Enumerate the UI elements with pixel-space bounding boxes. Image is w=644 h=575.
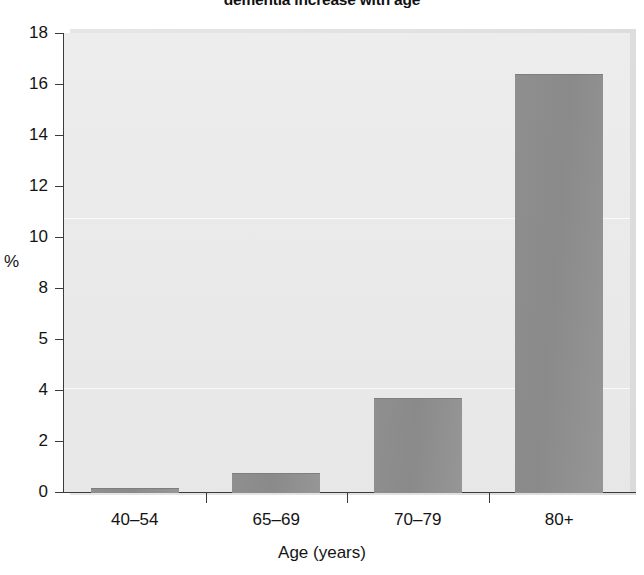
y-axis-tick <box>55 492 64 493</box>
y-axis-tick <box>55 237 64 238</box>
bar[interactable] <box>374 398 462 493</box>
y-axis-tick <box>55 441 64 442</box>
x-axis-category-label: 80+ <box>545 510 574 530</box>
y-axis-tick-label: 5 <box>4 329 48 349</box>
y-axis-tick <box>55 84 64 85</box>
y-axis-tick-label: 18 <box>4 23 48 43</box>
bar[interactable] <box>232 473 320 493</box>
y-axis-tick <box>55 33 64 34</box>
y-axis-tick-label: 8 <box>4 278 48 298</box>
y-axis-tick <box>55 288 64 289</box>
bar[interactable] <box>91 488 179 493</box>
y-axis-tick <box>55 135 64 136</box>
y-axis-tick-label: 2 <box>4 431 48 451</box>
chart-plot-wrapper: 181614121085420 40–5465–6970–7980+ % Age… <box>0 0 644 575</box>
y-axis-tick <box>55 186 64 187</box>
x-axis-tick <box>347 493 348 503</box>
x-axis-tick <box>489 493 490 503</box>
y-axis-tick <box>55 339 64 340</box>
x-axis-category-label: 65–69 <box>253 510 300 530</box>
y-axis-tick-label: 12 <box>4 176 48 196</box>
y-axis-tick-label: 14 <box>4 125 48 145</box>
y-axis-tick <box>55 390 64 391</box>
y-axis-title: % <box>4 252 19 272</box>
x-axis-title: Age (years) <box>0 543 644 563</box>
y-axis-tick-label: 0 <box>4 482 48 502</box>
x-axis-tick <box>206 493 207 503</box>
x-axis-category-label: 40–54 <box>111 510 158 530</box>
y-axis-tick-label: 10 <box>4 227 48 247</box>
y-axis-line <box>63 33 64 493</box>
y-axis-tick-label: 16 <box>4 74 48 94</box>
bar[interactable] <box>515 74 603 493</box>
x-axis-category-label: 70–79 <box>394 510 441 530</box>
y-axis-tick-label: 4 <box>4 380 48 400</box>
